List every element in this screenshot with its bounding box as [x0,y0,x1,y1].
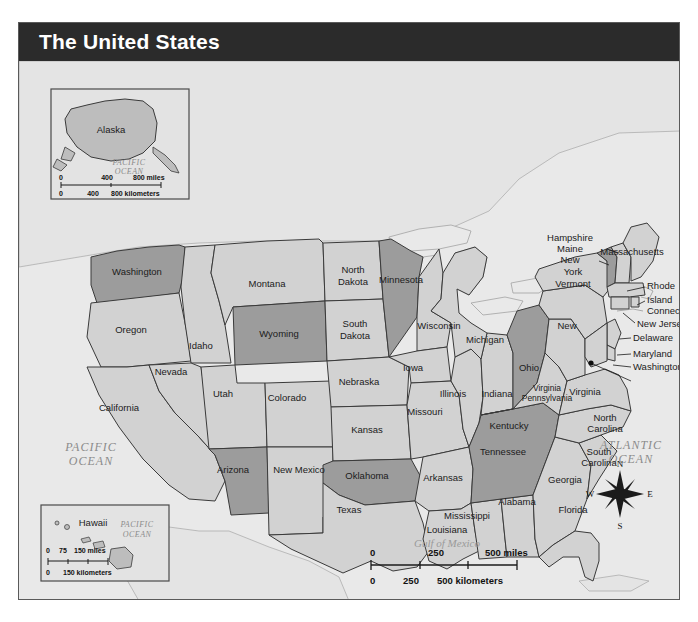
label-utah: Utah [213,388,233,399]
label-rhode-island-line2: Connecticut [647,305,680,316]
label-alabama: Alabama [498,496,536,507]
label-wyoming: Wyoming [259,328,299,339]
label-washington: Washington [112,266,162,277]
label-delaware: Maryland [633,348,672,359]
label-new-jersey: Delaware [633,332,673,343]
alaska-scale-km-t1: 400 [87,190,99,197]
washington-dc-marker[interactable] [588,360,593,365]
hawaii-pacific-line1: PACIFIC [119,520,153,529]
pacific-ocean-label: PACIFIC OCEAN [64,440,116,468]
label-kentucky: Kentucky [489,420,528,431]
scale-miles-t1: 250 [428,547,444,558]
label-arizona: Arizona [217,464,250,475]
map-canvas: PACIFIC OCEAN ATLANTIC OCEAN Gulf of Mex… [19,61,680,600]
label-montana: Montana [249,278,287,289]
label-new-york-line1: York [564,266,583,277]
label-louisiana: Louisiana [427,524,468,535]
label-colorado: Colorado [268,392,307,403]
label-georgia: Georgia [548,474,583,485]
label-texas: Texas [337,504,362,515]
alaska-scale-km-t2: 800 kilometers [111,190,160,197]
hawaii-island-oahu [65,525,70,530]
gulf-of-mexico-label: Gulf of Mexico [414,537,480,549]
label-oregon: Oregon [115,324,147,335]
label-mississippi: Mississippi [444,510,490,521]
label-new-hampshire-line1: Maine [557,243,583,254]
label-new-mexico: New Mexico [273,464,325,475]
label-maryland: Washington, D.C. [633,361,680,372]
label-west-virginia-line1: Virginia [533,383,561,393]
state-indiana[interactable] [481,333,513,415]
label-new-york-line2: Vermont [555,278,591,289]
hawaii-scale-miles-t1: 75 [59,547,67,554]
label-tennessee: Tennessee [480,446,526,457]
state-rhode-island[interactable] [631,297,639,307]
map-page: The United States [0,0,698,622]
hawaii-inset[interactable]: Hawaii PACIFIC OCEAN 0 75 150 miles 0 15… [41,505,169,581]
label-arkansas: Arkansas [423,472,463,483]
alaska-label: Alaska [97,124,126,135]
label-wisconsin: Wisconsin [417,320,460,331]
page-title: The United States [39,30,220,54]
hawaii-scale-km-t1: 150 kilometers [63,569,112,576]
hawaii-scale-km-t0: 0 [46,569,50,576]
scale-km-t0: 0 [370,575,375,586]
scale-miles-t2: 500 miles [485,547,528,558]
label-kansas: Kansas [351,424,383,435]
label-massachusetts: Rhode [647,280,675,291]
label-west-virginia-line2: Pennsylvania [522,393,573,403]
label-oklahoma: Oklahoma [345,470,389,481]
label-new-hampshire-line0: Hampshire [547,232,593,243]
alaska-inset[interactable]: Alaska PACIFIC OCEAN 0 400 800 miles 0 4… [51,89,189,199]
label-california: California [99,402,140,413]
label-idaho: Idaho [189,340,213,351]
state-colorado[interactable] [265,381,333,447]
label-iowa: Iowa [403,362,424,373]
alaska-scale-miles-t0: 0 [59,174,63,181]
label-vermont: New [560,254,579,265]
state-connecticut[interactable] [611,297,629,309]
svg-text:PACIFIC: PACIFIC [64,440,116,454]
scale-km-t1: 250 [403,575,419,586]
label-minnesota: Minnesota [379,274,424,285]
label-north-dakota-line2: Dakota [338,276,369,287]
compass-east-label: E [647,489,653,499]
alaska-pacific-line1: PACIFIC [111,158,145,167]
label-connecticut: New Jersey [637,318,680,329]
alaska-scale-miles-t1: 400 [101,174,113,181]
label-virginia: Virginia [569,386,601,397]
map-frame: The United States [18,22,680,600]
state-massachusetts[interactable] [607,283,645,297]
label-north-carolina-line1: North [593,412,616,423]
compass-north-label: N [617,459,624,469]
hawaii-label: Hawaii [79,517,108,528]
compass-south-label: S [617,521,622,531]
hawaii-scale-miles-t0: 0 [46,547,50,554]
label-illinois: Illinois [440,388,467,399]
scale-km-t2: 500 kilometers [437,575,503,586]
label-pennsylvania: New [557,320,576,331]
title-bar: The United States [19,23,680,61]
compass-west-label: W [586,489,595,499]
label-indiana: Indiana [481,388,513,399]
label-south-dakota-line1: South [343,318,368,329]
hawaii-pacific-line2: OCEAN [123,530,152,539]
label-nebraska: Nebraska [339,376,380,387]
label-south-carolina-line2: Carolina [581,457,617,468]
label-north-carolina-line2: Carolina [587,423,623,434]
label-south-dakota-line2: Dakota [340,330,371,341]
label-south-carolina-line1: South [587,446,612,457]
svg-text:OCEAN: OCEAN [69,454,113,468]
label-north-dakota-line1: North [341,264,364,275]
hawaii-island-kauai [55,521,59,525]
alaska-scale-km-t0: 0 [59,190,63,197]
hawaii-scale-miles-t2: 150 miles [74,547,106,554]
label-florida: Florida [558,504,588,515]
label-ohio: Ohio [519,362,539,373]
label-maine: Massachusetts [600,246,664,257]
label-nevada: Nevada [155,366,188,377]
alaska-scale-miles-t2: 800 miles [133,174,165,181]
scale-miles-t0: 0 [370,547,375,558]
label-michigan: Michigan [466,334,504,345]
label-missouri: Missouri [407,406,442,417]
